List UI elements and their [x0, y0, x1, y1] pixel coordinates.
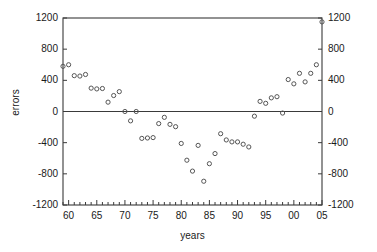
x-tick-label: 75	[139, 211, 167, 221]
x-tick-label: 95	[252, 211, 280, 221]
y-tick-label-left: -800	[15, 169, 58, 179]
x-tick-label: 80	[167, 211, 195, 221]
x-tick-label: 85	[195, 211, 223, 221]
y-tick-label-left: -400	[15, 138, 58, 148]
y-tick-label-left: -1200	[15, 200, 58, 210]
y-tick-label-right: -400	[328, 138, 371, 148]
x-tick-label: 90	[224, 211, 252, 221]
x-tick-label: 60	[55, 211, 83, 221]
y-tick-label-right: 800	[328, 44, 371, 54]
y-tick-label-right: -1200	[328, 200, 371, 210]
y-tick-label-left: 1200	[15, 13, 58, 23]
x-tick-label: 70	[111, 211, 139, 221]
y-tick-label-left: 800	[15, 44, 58, 54]
y-tick-label-left: 0	[15, 107, 58, 117]
data-points	[61, 20, 324, 184]
y-tick-label-right: -800	[328, 169, 371, 179]
x-tick-label: 65	[83, 211, 111, 221]
y-tick-label-left: 400	[15, 75, 58, 85]
y-tick-label-right: 0	[328, 107, 371, 117]
x-tick-label: 05	[308, 211, 336, 221]
y-tick-label-right: 400	[328, 75, 371, 85]
y-tick-label-right: 1200	[328, 13, 371, 23]
scatter-chart: errors years 1200120080080040040000-400-…	[0, 0, 377, 252]
x-tick-label: 00	[280, 211, 308, 221]
